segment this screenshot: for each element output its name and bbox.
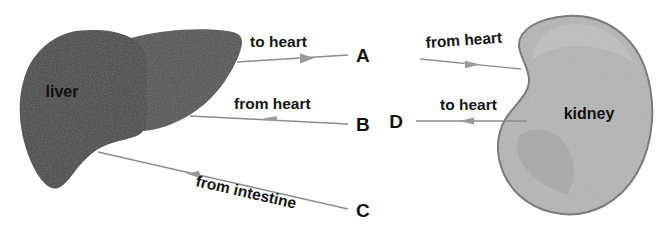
liver-from-heart-label: from heart — [234, 95, 311, 112]
kidney-from-heart-label: from heart — [425, 29, 503, 51]
kidney-from-heart-arrowhead — [465, 61, 480, 68]
letter-label-d: D — [389, 111, 403, 132]
liver-to-heart-line — [237, 55, 348, 62]
letter-label-c: C — [356, 200, 370, 221]
kidney-to-heart-label: to heart — [440, 96, 497, 113]
letter-label-a: A — [356, 45, 370, 66]
vessel-liver-to-heart: to heart A — [237, 33, 370, 66]
diagram-canvas: liver to heart A from heart B from intes… — [0, 0, 667, 239]
liver-label: liver — [46, 83, 79, 100]
liver-to-heart-arrowhead — [300, 53, 314, 63]
diagram-svg: liver to heart A from heart B from intes… — [0, 0, 667, 239]
liver-left-lobe-shape — [20, 30, 147, 189]
liver-organ-group: liver — [20, 29, 242, 188]
vessel-kidney-from-heart: from heart — [420, 29, 521, 69]
liver-from-heart-line — [190, 116, 348, 124]
kidney-label: kidney — [564, 105, 615, 122]
kidney-to-heart-arrowhead — [459, 118, 474, 125]
vessel-liver-from-heart: from heart B — [190, 95, 370, 135]
liver-from-intestine-label: from intestine — [194, 172, 298, 211]
liver-to-heart-label: to heart — [250, 33, 307, 50]
kidney-organ-group: kidney — [498, 16, 652, 215]
letter-label-b: B — [356, 114, 370, 135]
vessel-liver-from-intestine: from intestine C — [98, 152, 370, 221]
